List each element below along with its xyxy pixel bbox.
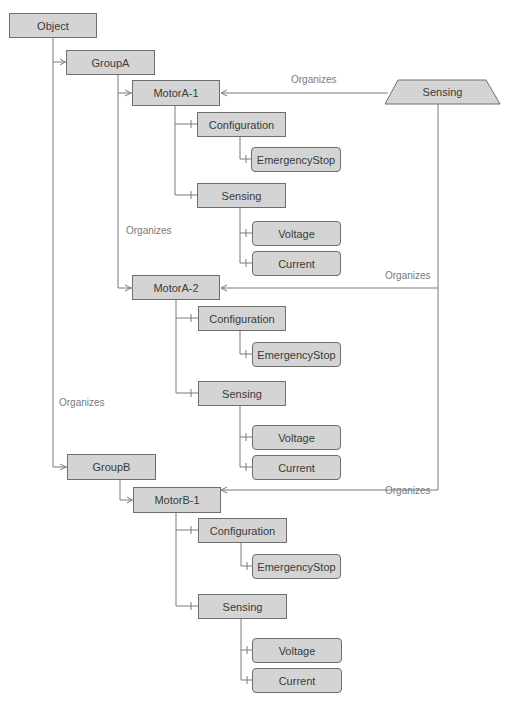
- motor-b1-sensing-node[interactable]: Sensing: [198, 594, 287, 619]
- group-a-node[interactable]: GroupA: [66, 50, 155, 75]
- motor-a1-sensing-node[interactable]: Sensing: [197, 183, 286, 208]
- motor-b1-current-node[interactable]: Current: [252, 668, 342, 693]
- motor-a2-emergency-stop-node[interactable]: EmergencyStop: [252, 342, 341, 367]
- motor-b1-emergency-stop-node[interactable]: EmergencyStop: [252, 554, 341, 579]
- motor-a2-current-node[interactable]: Current: [252, 455, 341, 480]
- motor-a1-node[interactable]: MotorA-1: [132, 80, 220, 106]
- motor-a1-emergency-stop-node[interactable]: EmergencyStop: [251, 147, 341, 172]
- motor-a2-voltage-node[interactable]: Voltage: [252, 425, 341, 450]
- motor-a2-configuration-node[interactable]: Configuration: [198, 306, 286, 331]
- organizes-label-group-a: Organizes: [126, 225, 172, 236]
- motor-a1-configuration-node[interactable]: Configuration: [197, 112, 286, 137]
- organizes-label-b1: Organizes: [385, 485, 431, 496]
- organizes-label-object: Organizes: [59, 397, 105, 408]
- organizes-label-a1: Organizes: [291, 74, 337, 85]
- motor-b1-node[interactable]: MotorB-1: [133, 487, 221, 513]
- organizes-label-a2: Organizes: [385, 270, 431, 281]
- group-b-node[interactable]: GroupB: [67, 454, 156, 480]
- motor-a1-voltage-node[interactable]: Voltage: [252, 221, 341, 246]
- motor-a1-current-node[interactable]: Current: [252, 251, 341, 276]
- motor-b1-configuration-node[interactable]: Configuration: [198, 518, 287, 543]
- motor-a2-node[interactable]: MotorA-2: [132, 275, 220, 300]
- motor-b1-voltage-node[interactable]: Voltage: [252, 638, 342, 663]
- motor-a2-sensing-node[interactable]: Sensing: [198, 381, 286, 406]
- sensing-type-node[interactable]: Sensing: [385, 80, 500, 104]
- object-node[interactable]: Object: [9, 13, 97, 38]
